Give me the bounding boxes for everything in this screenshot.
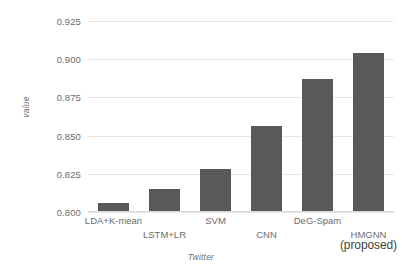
y-axis-tick-label: 0.900 <box>57 54 81 65</box>
gridline <box>88 97 394 98</box>
x-axis-tick-label: CNN <box>256 229 277 240</box>
x-axis-tick-label: LDA+K-mean <box>85 215 142 226</box>
x-axis-tick-label-text: SVM <box>205 215 226 226</box>
gridline <box>88 174 394 175</box>
bar <box>353 53 384 212</box>
x-axis-tick-label: DeG-Spam <box>294 215 342 226</box>
y-axis-tick-label: 0.875 <box>57 92 81 103</box>
x-axis-tick-label: SVM <box>205 215 226 226</box>
x-axis-tick-label-text: CNN <box>256 229 277 240</box>
y-axis-tick-label: 0.825 <box>57 168 81 179</box>
gridline <box>88 21 394 22</box>
y-axis-tick-label: 0.925 <box>57 16 81 27</box>
x-axis-tick-label-text: LDA+K-mean <box>85 215 142 226</box>
y-axis-tick-label: 0.800 <box>57 207 81 218</box>
y-axis-title: value <box>21 77 31 137</box>
bar <box>251 126 282 212</box>
bar <box>149 189 180 212</box>
bar <box>302 79 333 212</box>
plot-area: 0.8000.8250.8500.8750.9000.925 <box>88 21 394 212</box>
bar-chart-figure: value 0.8000.8250.8500.8750.9000.925 LDA… <box>0 0 402 279</box>
x-axis-baseline <box>88 211 394 212</box>
x-axis-tick-label: LSTM+LR <box>143 229 186 240</box>
bar <box>200 169 231 212</box>
x-axis-tick-label-text: DeG-Spam <box>294 215 342 226</box>
gridline <box>88 212 394 213</box>
gridline <box>88 59 394 60</box>
x-axis-tick-label-text: LSTM+LR <box>143 229 186 240</box>
y-axis-tick-label: 0.850 <box>57 130 81 141</box>
x-axis-tick-label: HMGNN(proposed) <box>340 229 397 251</box>
gridline <box>88 136 394 137</box>
x-axis-title: Twitter <box>0 252 402 262</box>
x-axis-tick-label-sublabel: (proposed) <box>340 240 397 251</box>
